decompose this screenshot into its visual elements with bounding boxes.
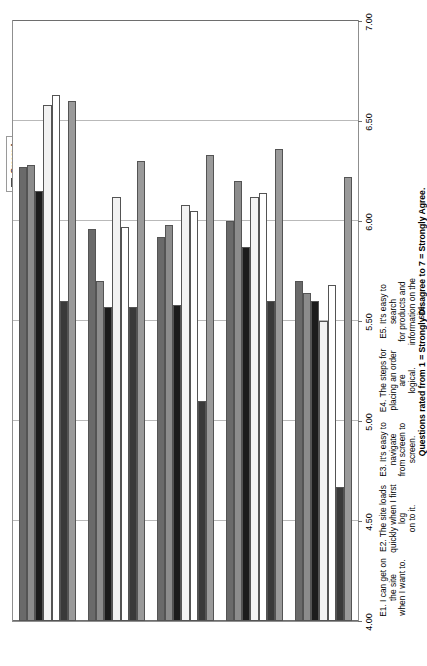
- bar: [104, 307, 112, 621]
- bar: [157, 237, 165, 621]
- category-label: E1. I can get on the site when I want to…: [379, 553, 408, 622]
- category-label: E4. The steps for placing an order are l…: [379, 346, 417, 415]
- value-tick-label: 5.50: [365, 313, 374, 331]
- value-tick-label: 5.00: [365, 413, 374, 431]
- bar: [206, 155, 214, 621]
- tick-mark: [358, 21, 362, 22]
- bar: [129, 307, 137, 621]
- bar: [52, 95, 60, 621]
- bar: [226, 221, 234, 621]
- bar: [198, 401, 206, 621]
- bar-group: [289, 21, 358, 621]
- bar: [19, 167, 27, 621]
- category-label: E3. It's easy to navigate from screen to…: [379, 415, 417, 484]
- bar-group: [82, 21, 151, 621]
- value-tick-label: 6.00: [365, 213, 374, 231]
- tick-mark: [358, 421, 362, 422]
- bar: [68, 101, 76, 621]
- bar: [344, 177, 352, 621]
- bar: [259, 193, 267, 621]
- tick-mark: [358, 621, 362, 622]
- value-tick-label: 4.00: [365, 613, 374, 631]
- bar: [27, 165, 35, 621]
- bar: [295, 281, 303, 621]
- bar: [173, 305, 181, 621]
- bar: [112, 197, 120, 621]
- tick-mark: [358, 321, 362, 322]
- bar: [234, 181, 242, 621]
- bar: [35, 191, 43, 621]
- bar: [303, 293, 311, 621]
- tick-mark: [358, 121, 362, 122]
- bar: [60, 301, 68, 621]
- tick-mark: [358, 521, 362, 522]
- bar: [328, 285, 336, 621]
- bar: [88, 229, 96, 621]
- bar: [43, 105, 51, 621]
- bar: [121, 227, 129, 621]
- bar-group: [220, 21, 289, 621]
- bar: [96, 281, 104, 621]
- plot-area: [12, 20, 359, 622]
- bar: [165, 225, 173, 621]
- tick-mark: [358, 221, 362, 222]
- bar: [275, 149, 283, 621]
- bar: [242, 247, 250, 621]
- bar-group: [151, 21, 220, 621]
- category-label: E2. The site loads quickly when I first …: [379, 484, 417, 553]
- bar-series-container: [13, 21, 358, 621]
- bar: [181, 205, 189, 621]
- bar: [311, 301, 319, 621]
- value-tick-label: 4.50: [365, 513, 374, 531]
- bar: [267, 301, 275, 621]
- bar: [137, 161, 145, 621]
- bar: [250, 197, 258, 621]
- bar-group: [13, 21, 82, 621]
- value-tick-label: 7.00: [365, 13, 374, 31]
- bar: [319, 321, 327, 621]
- bar: [336, 487, 344, 621]
- value-tick-label: 6.50: [365, 113, 374, 131]
- axis-title: Questions rated from 1 = Strongly Disagr…: [417, 188, 427, 457]
- bar: [190, 211, 198, 621]
